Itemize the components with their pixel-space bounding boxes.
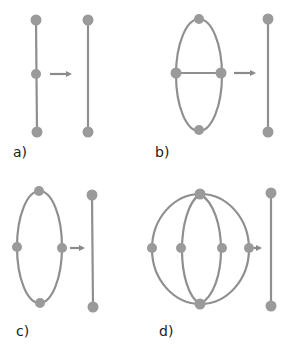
graph-reduction-diagram — [0, 0, 288, 348]
panel-c-left-graph — [12, 186, 67, 308]
edge-outer-circle — [152, 194, 249, 304]
node — [244, 243, 254, 253]
node — [57, 243, 67, 253]
node — [266, 301, 277, 312]
node — [194, 14, 204, 24]
node — [87, 190, 98, 201]
panel-d-label: d) — [159, 323, 173, 339]
node — [263, 127, 274, 138]
node — [88, 302, 99, 313]
node — [12, 242, 22, 252]
node — [31, 69, 41, 79]
node — [195, 299, 206, 310]
node — [194, 125, 204, 135]
node — [31, 15, 42, 26]
edge — [92, 195, 93, 307]
node — [195, 189, 206, 200]
panel-b-left-graph — [171, 14, 227, 135]
node — [263, 14, 274, 25]
panel-b — [171, 14, 274, 138]
panel-a-right-graph — [83, 15, 94, 138]
node — [147, 243, 157, 253]
panel-a-label: a) — [13, 144, 27, 160]
node — [176, 243, 186, 253]
edge-ellipse — [17, 191, 62, 303]
node — [171, 68, 182, 79]
panel-d-left-graph — [147, 189, 254, 310]
panel-c — [12, 186, 99, 313]
panel-a — [31, 15, 94, 138]
node — [35, 298, 45, 308]
node — [83, 127, 94, 138]
node — [266, 188, 277, 199]
panel-d-right-graph — [266, 188, 277, 312]
node — [83, 15, 94, 26]
node — [32, 127, 43, 138]
panel-a-left-graph — [31, 15, 43, 138]
node — [217, 243, 227, 253]
panel-b-label: b) — [155, 144, 169, 160]
panel-c-label: c) — [16, 323, 29, 339]
panel-d — [147, 188, 277, 312]
panel-c-right-graph — [87, 190, 99, 313]
node — [216, 68, 227, 79]
panel-b-right-graph — [263, 14, 274, 138]
node — [34, 186, 44, 196]
edge-ellipse — [176, 19, 222, 131]
